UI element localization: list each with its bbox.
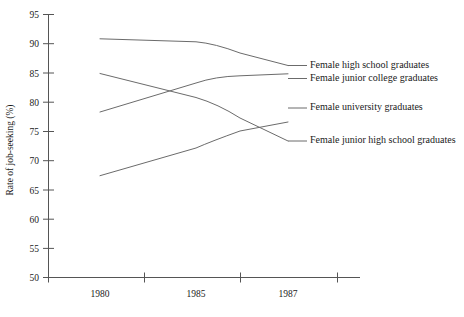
- series-label-high-school: Female high school graduates: [310, 59, 429, 70]
- y-tick-label-70: 70: [30, 156, 40, 166]
- series-line-university: [100, 122, 288, 176]
- y-tick-label-55: 55: [30, 244, 40, 254]
- x-tick-label-1987: 1987: [279, 289, 298, 299]
- line-chart: Rate of job-seeking (%) 95 90 85 80 75 7…: [0, 0, 464, 317]
- x-tick-group: 1980 1985 1987: [49, 273, 338, 300]
- y-tick-label-75: 75: [30, 127, 40, 137]
- y-tick-group: 95 90 85 80 75 70 65 60 55 50: [30, 10, 55, 283]
- chart-container: Rate of job-seeking (%) 95 90 85 80 75 7…: [0, 0, 464, 317]
- y-tick-label-85: 85: [30, 69, 40, 79]
- series-female-high-school-graduates: Female high school graduates: [100, 39, 429, 70]
- series-line-junior-college: [100, 74, 288, 112]
- y-tick-label-50: 50: [30, 273, 40, 283]
- series-line-high-school: [100, 39, 288, 66]
- series-label-junior-college: Female junior college graduates: [310, 72, 438, 83]
- y-tick-label-65: 65: [30, 186, 40, 196]
- x-tick-label-1985: 1985: [187, 289, 206, 299]
- y-tick-label-80: 80: [30, 98, 40, 108]
- series-label-university: Female university graduates: [310, 101, 423, 112]
- y-tick-label-90: 90: [30, 39, 40, 49]
- y-axis-title: Rate of job-seeking (%): [5, 104, 16, 195]
- series-label-junior-high: Female junior high school graduates: [310, 134, 456, 145]
- x-tick-label-1980: 1980: [91, 289, 110, 299]
- y-tick-label-95: 95: [30, 10, 40, 20]
- y-tick-label-60: 60: [30, 215, 40, 225]
